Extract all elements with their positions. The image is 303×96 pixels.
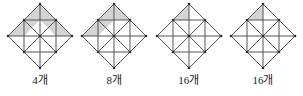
vertex-dot-7 — [55, 51, 58, 54]
vertex-dot-7 — [129, 51, 132, 54]
grid-line-12 — [263, 52, 279, 68]
vertex-dot-4 — [81, 35, 84, 38]
grid-line-8 — [8, 36, 24, 52]
grid-line-12 — [114, 52, 130, 68]
grid-line-8 — [82, 36, 98, 52]
grid-line-8 — [157, 36, 173, 52]
vertex-dot-7 — [203, 51, 206, 54]
figure-block-3: 16개 — [153, 0, 225, 87]
figure-caption-4: 16개 — [252, 71, 273, 87]
grid-line-8 — [231, 36, 247, 52]
vertex-dot-6 — [203, 19, 206, 22]
grid-line-6 — [263, 4, 279, 20]
grid-line-11 — [98, 52, 114, 68]
vertex-dot-5 — [97, 19, 100, 22]
grid-line-9 — [205, 20, 221, 36]
vertex-dot-7 — [278, 51, 281, 54]
grid-line-10 — [279, 36, 295, 52]
vertex-dot-9 — [262, 35, 265, 38]
vertex-dot-1 — [187, 3, 190, 6]
vertex-dot-1 — [113, 3, 116, 6]
vertex-dot-1 — [39, 3, 42, 6]
diamond-svg — [4, 0, 76, 72]
figure-row: 4개8개16개16개 — [0, 0, 303, 96]
figure-caption-2: 8개 — [107, 71, 123, 87]
grid-line-12 — [40, 52, 56, 68]
grid-line-10 — [130, 36, 146, 52]
diamond-svg — [227, 0, 299, 72]
vertex-dot-2 — [219, 35, 222, 38]
vertex-dot-8 — [97, 51, 100, 54]
diamond-diagram-3 — [153, 0, 225, 70]
vertex-dot-9 — [187, 35, 190, 38]
vertex-dot-4 — [155, 35, 158, 38]
figure-block-2: 8개 — [78, 0, 150, 87]
vertex-dot-6 — [55, 19, 58, 22]
grid-line-7 — [231, 20, 247, 36]
grid-line-9 — [279, 20, 295, 36]
grid-line-7 — [157, 20, 173, 36]
vertex-dot-5 — [246, 19, 249, 22]
vertex-dot-6 — [129, 19, 132, 22]
vertex-dot-8 — [246, 51, 249, 54]
grid-line-11 — [173, 52, 189, 68]
vertex-dot-9 — [39, 35, 42, 38]
vertex-dot-3 — [113, 67, 116, 70]
vertex-dot-3 — [187, 67, 190, 70]
vertex-dot-8 — [23, 51, 26, 54]
grid-line-11 — [247, 52, 263, 68]
vertex-dot-1 — [262, 3, 265, 6]
vertex-dot-2 — [71, 35, 74, 38]
grid-line-6 — [189, 4, 205, 20]
diamond-diagram-4 — [227, 0, 299, 70]
grid-line-12 — [189, 52, 205, 68]
diamond-diagram-2 — [78, 0, 150, 70]
vertex-dot-8 — [171, 51, 174, 54]
vertex-dot-2 — [145, 35, 148, 38]
vertex-dot-3 — [262, 67, 265, 70]
vertex-dot-3 — [39, 67, 42, 70]
diamond-svg — [78, 0, 150, 72]
grid-line-10 — [205, 36, 221, 52]
figure-block-4: 16개 — [227, 0, 299, 87]
diamond-diagram-1 — [4, 0, 76, 70]
vertex-dot-6 — [278, 19, 281, 22]
diamond-svg — [153, 0, 225, 72]
grid-line-9 — [130, 20, 146, 36]
vertex-dot-9 — [113, 35, 116, 38]
grid-line-10 — [56, 36, 72, 52]
vertex-dot-4 — [230, 35, 233, 38]
grid-line-11 — [24, 52, 40, 68]
vertex-dot-2 — [294, 35, 297, 38]
figure-caption-3: 16개 — [178, 71, 199, 87]
vertex-dot-5 — [23, 19, 26, 22]
figure-block-1: 4개 — [4, 0, 76, 87]
vertex-dot-5 — [171, 19, 174, 22]
vertex-dot-4 — [7, 35, 10, 38]
figure-caption-1: 4개 — [32, 71, 48, 87]
